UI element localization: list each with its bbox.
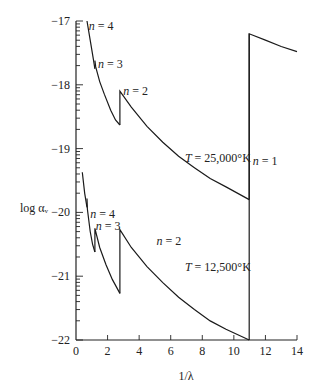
y-tick-label: −22 bbox=[51, 333, 70, 347]
y-tick-label: −20 bbox=[51, 205, 70, 219]
annotation-label: n = 3 bbox=[96, 219, 121, 233]
x-tick-label: 6 bbox=[168, 344, 174, 358]
y-axis-label: log αᵥ bbox=[20, 201, 49, 215]
series-12500K-line bbox=[120, 230, 249, 340]
x-tick-label: 4 bbox=[136, 344, 142, 358]
annotation-label: T = 12,500°K bbox=[185, 260, 251, 274]
chart: 02468101214−17−18−19−20−21−22 n = 4n = 3… bbox=[0, 0, 317, 389]
series-25000K-line bbox=[249, 34, 297, 200]
x-tick-label: 8 bbox=[199, 344, 205, 358]
x-tick-label: 2 bbox=[105, 344, 111, 358]
x-tick-label: 12 bbox=[259, 344, 271, 358]
annotation-label: n = 1 bbox=[253, 154, 278, 168]
y-tick-label: −17 bbox=[51, 14, 70, 28]
annotation-label: n = 3 bbox=[98, 57, 123, 71]
y-tick-label: −21 bbox=[51, 269, 70, 283]
x-tick-label: 0 bbox=[73, 344, 79, 358]
x-tick-label: 14 bbox=[291, 344, 303, 358]
y-tick-label: −18 bbox=[51, 78, 70, 92]
annotation-label: n = 2 bbox=[157, 234, 182, 248]
series-25000K-line bbox=[120, 91, 249, 199]
series-12500K-line bbox=[82, 172, 87, 207]
x-tick-label: 10 bbox=[228, 344, 240, 358]
annotation-label: n = 4 bbox=[89, 19, 114, 33]
annotation-label: T = 25,000°K bbox=[185, 151, 251, 165]
axes: 02468101214−17−18−19−20−21−22 bbox=[51, 14, 303, 358]
y-tick-label: −19 bbox=[51, 142, 70, 156]
series-12500K-line bbox=[95, 228, 120, 293]
annotation-label: n = 2 bbox=[123, 84, 148, 98]
x-axis-label: 1/λ bbox=[178, 369, 193, 383]
